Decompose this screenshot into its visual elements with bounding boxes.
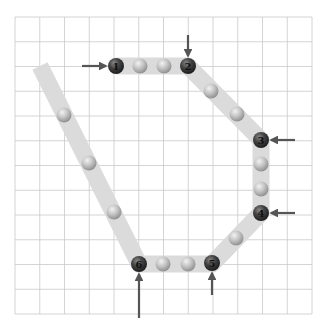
key-point-2: 2 [180, 58, 196, 74]
key-point-label: 3 [258, 135, 265, 146]
key-point-label: 4 [258, 208, 265, 219]
key-point-3: 3 [253, 132, 269, 148]
key-point-label: 2 [185, 61, 192, 72]
intermediate-ball-icon [254, 182, 269, 197]
intermediate-ball-icon [181, 257, 196, 272]
intermediate-ball-icon [156, 257, 171, 272]
key-point-5: 5 [204, 255, 220, 271]
intermediate-ball-icon [82, 156, 97, 171]
key-point-label: 5 [209, 258, 216, 269]
intermediate-ball-icon [107, 205, 122, 220]
intermediate-ball-icon [57, 108, 72, 123]
path-band-line [40, 66, 261, 264]
key-point-6: 6 [131, 256, 147, 272]
key-point-1: 1 [108, 58, 124, 74]
key-point-label: 6 [136, 259, 143, 270]
intermediate-ball-icon [157, 59, 172, 74]
intermediate-ball-icon [133, 59, 148, 74]
intermediate-ball-icon [229, 231, 244, 246]
path-diagram: 123456 [0, 0, 329, 330]
path-band [40, 66, 261, 264]
intermediate-ball-icon [230, 107, 245, 122]
intermediate-ball-icon [254, 157, 269, 172]
intermediate-ball-icon [204, 84, 219, 99]
key-point-label: 1 [113, 61, 120, 72]
key-point-4: 4 [253, 205, 269, 221]
